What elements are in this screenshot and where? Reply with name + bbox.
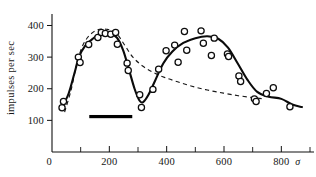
y-tick-label: 200	[28, 83, 44, 94]
data-point	[270, 85, 276, 91]
x-axis-unit-symbol: σ	[295, 156, 301, 167]
data-point	[138, 104, 144, 110]
dashed-curve-path	[65, 29, 265, 112]
data-point	[225, 53, 231, 59]
data-point	[137, 92, 143, 98]
x-tick-label: 400	[158, 156, 174, 167]
data-point	[150, 86, 156, 92]
data-point	[175, 59, 181, 65]
x-tick-group	[81, 146, 310, 152]
y-axis-label: impulses per sec	[5, 41, 16, 115]
y-tick-label: 100	[28, 115, 44, 126]
data-point	[198, 28, 204, 34]
data-point	[253, 98, 259, 104]
x-tick-label: 600	[216, 156, 232, 167]
x-tick-label: 200	[101, 156, 117, 167]
data-point	[125, 67, 131, 73]
x-axis-origin-label: 0	[46, 156, 51, 167]
data-point	[156, 66, 162, 72]
data-point	[172, 42, 178, 48]
stimulus-bar	[89, 115, 132, 118]
data-point	[263, 90, 269, 96]
y-tick-group	[47, 25, 52, 120]
scatter-plot: impulses per sec 10020030040020040060080…	[0, 0, 316, 177]
data-point	[184, 47, 190, 53]
dashed-reference-curve	[65, 29, 265, 112]
data-point	[163, 48, 169, 54]
x-tick-label: 800	[273, 156, 289, 167]
y-tick-label: 300	[28, 52, 44, 63]
data-point	[77, 59, 83, 65]
data-point	[60, 98, 66, 104]
data-point	[59, 105, 65, 111]
data-point	[124, 60, 130, 66]
chart-figure: impulses per sec 10020030040020040060080…	[0, 0, 316, 177]
data-point	[211, 35, 217, 41]
y-tick-label: 400	[28, 20, 44, 31]
data-point	[287, 104, 293, 110]
data-point	[114, 41, 120, 47]
data-point	[181, 28, 187, 34]
data-point	[200, 40, 206, 46]
stimulus-duration-bar	[89, 115, 132, 118]
data-point	[86, 41, 92, 47]
y-axis-label-text: impulses per sec	[5, 41, 16, 115]
data-point-group	[59, 28, 293, 111]
data-point	[238, 78, 244, 84]
data-point	[208, 52, 214, 58]
data-point	[113, 29, 119, 35]
